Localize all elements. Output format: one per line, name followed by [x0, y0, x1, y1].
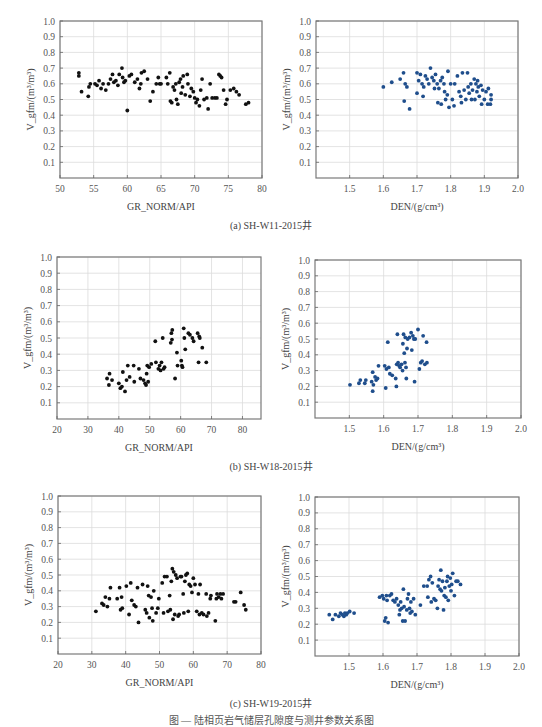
- svg-text:80: 80: [256, 660, 266, 670]
- plot-area: 0.10.20.30.40.50.60.70.80.91.01.51.61.71…: [315, 260, 521, 418]
- svg-text:75: 75: [224, 184, 234, 194]
- svg-text:50: 50: [145, 425, 155, 435]
- svg-text:0.6: 0.6: [298, 319, 310, 329]
- scatter-a-gr: 0.10.20.30.40.50.60.70.80.91.05055606570…: [60, 21, 262, 178]
- svg-text:1.0: 1.0: [298, 493, 310, 503]
- svg-text:0.2: 0.2: [43, 142, 55, 152]
- svg-text:0.9: 0.9: [43, 32, 55, 42]
- svg-text:0.9: 0.9: [298, 271, 310, 281]
- x-axis-label: DEN/(g/cm³): [391, 201, 444, 213]
- svg-text:0.7: 0.7: [299, 64, 311, 74]
- svg-text:0.9: 0.9: [298, 508, 310, 518]
- svg-text:1.9: 1.9: [478, 184, 490, 194]
- svg-text:50: 50: [155, 660, 165, 670]
- svg-text:0.4: 0.4: [298, 350, 310, 360]
- svg-text:20: 20: [53, 660, 63, 670]
- plot-area: 0.10.20.30.40.50.60.70.80.91.02030405060…: [57, 257, 261, 419]
- svg-text:0.8: 0.8: [298, 524, 310, 534]
- svg-text:1.7: 1.7: [412, 424, 424, 434]
- x-axis-label: GR_NORM/API: [125, 442, 193, 453]
- svg-text:20: 20: [52, 425, 62, 435]
- svg-text:80: 80: [238, 425, 248, 435]
- svg-text:1.9: 1.9: [481, 424, 493, 434]
- subplot-caption-b: (b) SH-W18-2015井: [0, 458, 542, 473]
- y-axis-label: V_gfm/(m³/m³): [281, 68, 293, 130]
- svg-text:0.7: 0.7: [40, 301, 52, 311]
- svg-text:0.3: 0.3: [40, 366, 52, 376]
- scatter-c-den: 0.10.20.30.40.50.60.70.80.91.01.51.61.71…: [315, 497, 519, 656]
- svg-text:0.9: 0.9: [299, 32, 311, 42]
- svg-text:0.8: 0.8: [43, 48, 55, 58]
- svg-text:40: 40: [114, 425, 124, 435]
- svg-text:65: 65: [156, 184, 166, 194]
- svg-text:0.6: 0.6: [41, 555, 53, 565]
- svg-text:0.7: 0.7: [298, 540, 310, 550]
- svg-text:0.4: 0.4: [40, 350, 52, 360]
- svg-text:1.8: 1.8: [446, 424, 458, 434]
- svg-text:0.5: 0.5: [298, 335, 310, 345]
- svg-text:0.5: 0.5: [40, 334, 52, 344]
- svg-text:1.6: 1.6: [378, 424, 390, 434]
- y-axis-label: V_gfm/(m³/m³): [23, 544, 35, 606]
- svg-text:1.0: 1.0: [43, 17, 55, 27]
- y-axis-label: V_gfm/(m³/m³): [280, 545, 292, 607]
- svg-text:50: 50: [55, 184, 65, 194]
- plot-area: 0.10.20.30.40.50.60.70.80.91.05055606570…: [60, 21, 262, 178]
- plot-area: 0.10.20.30.40.50.60.70.80.91.01.51.61.71…: [315, 497, 519, 656]
- svg-text:1.0: 1.0: [298, 256, 310, 266]
- svg-text:0.5: 0.5: [43, 95, 55, 105]
- svg-text:0.1: 0.1: [40, 398, 52, 408]
- svg-text:0.9: 0.9: [41, 507, 53, 517]
- y-axis-label: V_gfm/(m³/m³): [22, 307, 34, 369]
- svg-text:0.4: 0.4: [299, 111, 311, 121]
- svg-text:0.2: 0.2: [299, 142, 311, 152]
- svg-text:0.8: 0.8: [298, 287, 310, 297]
- x-axis-label: GR_NORM/API: [127, 201, 195, 212]
- svg-text:0.6: 0.6: [43, 79, 55, 89]
- svg-text:0.1: 0.1: [43, 158, 55, 168]
- svg-text:0.2: 0.2: [40, 382, 52, 392]
- svg-text:0.4: 0.4: [41, 586, 53, 596]
- svg-text:1.6: 1.6: [377, 184, 389, 194]
- plot-area: 0.10.20.30.40.50.60.70.80.91.02030405060…: [58, 496, 261, 654]
- svg-text:1.7: 1.7: [411, 662, 423, 672]
- svg-text:0.1: 0.1: [298, 636, 310, 646]
- svg-text:0.5: 0.5: [299, 95, 311, 105]
- svg-text:0.2: 0.2: [298, 382, 310, 392]
- scatter-b-den: 0.10.20.30.40.50.60.70.80.91.01.51.61.71…: [315, 260, 521, 418]
- svg-text:0.2: 0.2: [41, 618, 53, 628]
- svg-text:1.0: 1.0: [41, 492, 53, 502]
- svg-text:2.0: 2.0: [515, 424, 527, 434]
- svg-text:40: 40: [121, 660, 131, 670]
- svg-text:0.3: 0.3: [299, 126, 311, 136]
- svg-text:60: 60: [176, 425, 186, 435]
- svg-text:0.1: 0.1: [298, 398, 310, 408]
- svg-text:1.9: 1.9: [479, 662, 491, 672]
- svg-text:0.7: 0.7: [43, 64, 55, 74]
- plot-area: 0.10.20.30.40.50.60.70.80.91.01.51.61.71…: [316, 21, 518, 178]
- svg-text:0.1: 0.1: [41, 634, 53, 644]
- svg-text:1.5: 1.5: [344, 184, 356, 194]
- svg-text:70: 70: [207, 425, 217, 435]
- svg-text:70: 70: [222, 660, 232, 670]
- figure-caption: 图 — 陆相页岩气储层孔隙度与测井参数关系图: [0, 712, 542, 727]
- scatter-a-den: 0.10.20.30.40.50.60.70.80.91.01.51.61.71…: [316, 21, 518, 178]
- svg-text:80: 80: [257, 184, 267, 194]
- svg-text:0.5: 0.5: [298, 572, 310, 582]
- svg-text:1.8: 1.8: [445, 184, 457, 194]
- svg-text:70: 70: [190, 184, 200, 194]
- subplot-caption-c: (c) SH-W19-2015井: [0, 695, 542, 710]
- svg-text:2.0: 2.0: [512, 184, 524, 194]
- svg-text:0.8: 0.8: [299, 48, 311, 58]
- svg-text:0.5: 0.5: [41, 571, 53, 581]
- svg-text:30: 30: [83, 425, 93, 435]
- svg-text:1.5: 1.5: [343, 424, 355, 434]
- svg-text:1.5: 1.5: [343, 662, 355, 672]
- svg-text:0.3: 0.3: [41, 602, 53, 612]
- svg-text:0.4: 0.4: [298, 588, 310, 598]
- svg-text:0.1: 0.1: [299, 158, 311, 168]
- x-axis-label: DEN/(g/cm³): [392, 441, 445, 453]
- svg-text:1.0: 1.0: [40, 253, 52, 263]
- svg-text:0.7: 0.7: [41, 539, 53, 549]
- scatter-c-gr: 0.10.20.30.40.50.60.70.80.91.02030405060…: [58, 496, 261, 654]
